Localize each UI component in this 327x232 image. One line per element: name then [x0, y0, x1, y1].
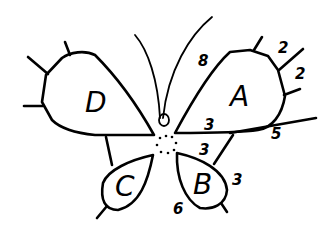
wing-b-tail — [221, 203, 227, 212]
butterfly-diagram: D A C B 8 2 2 3 5 3 3 6 — [0, 0, 327, 232]
wing-d-spike-2 — [28, 57, 48, 74]
number-a-right-2: 2 — [295, 65, 305, 83]
wing-a-spike-1 — [254, 37, 262, 50]
label-d: D — [85, 86, 107, 119]
number-antenna-8: 8 — [198, 52, 208, 70]
wing-a-spike-3 — [284, 89, 300, 95]
number-a-bottom-3: 3 — [204, 116, 214, 134]
connector-a-b — [214, 135, 233, 164]
number-b-top-3: 3 — [199, 141, 209, 159]
left-antenna — [135, 35, 160, 118]
number-a-edge-5: 5 — [271, 125, 281, 143]
wing-d-spike-1 — [65, 42, 70, 55]
number-b-bottom-6: 6 — [173, 200, 183, 218]
label-b: B — [193, 168, 212, 201]
label-c: C — [115, 170, 135, 203]
number-a-top-2: 2 — [278, 39, 288, 57]
connector-d-c — [106, 137, 112, 165]
number-b-right-3: 3 — [232, 171, 242, 189]
body-dots — [156, 135, 178, 155]
wing-c-tail — [97, 206, 107, 218]
label-a: A — [228, 80, 249, 113]
